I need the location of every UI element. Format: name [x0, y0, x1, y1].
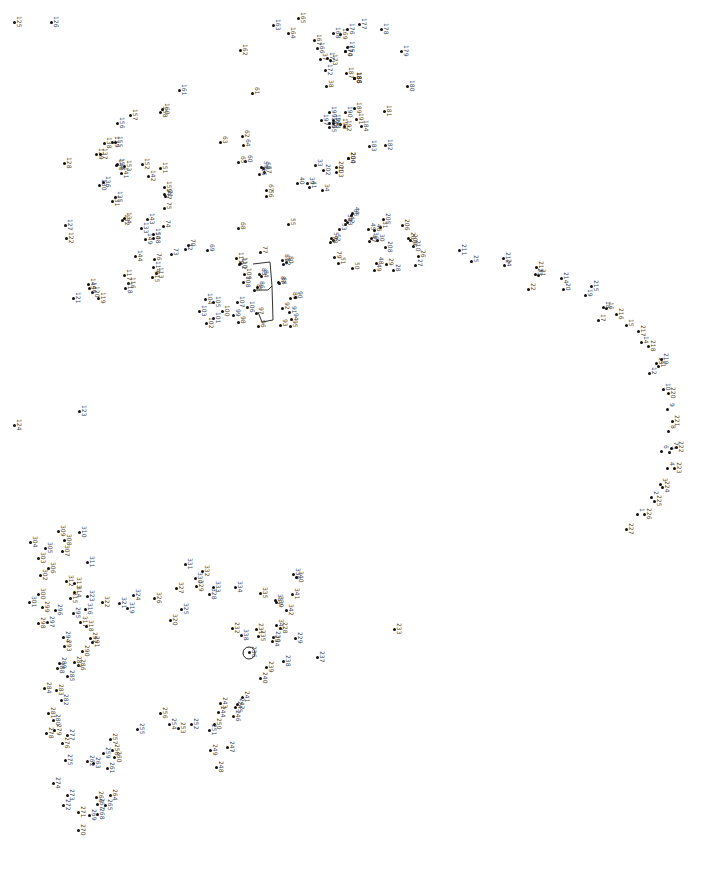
dot-number-label: 177 — [361, 18, 367, 29]
dot-number-label: 73 — [173, 248, 179, 256]
dot-number-label: 163 — [275, 19, 281, 30]
dot-number-label: 306 — [50, 562, 56, 573]
dot-number-label: 128 — [66, 157, 72, 168]
dot-number-label: 251 — [211, 724, 217, 735]
dot-number-label: 335 — [262, 587, 268, 598]
dot-number-label: 115 — [154, 271, 160, 282]
dot-number-label: 112 — [241, 258, 247, 269]
dot-number-label: 25 — [473, 255, 479, 263]
dot-number-label: 277 — [69, 729, 75, 740]
dot-number-label: 122 — [68, 232, 74, 243]
puzzle-dot — [659, 483, 662, 486]
dot-number-label: 22 — [530, 283, 536, 291]
dot-number-label: 226 — [646, 508, 652, 519]
dot-number-label: 244 — [220, 706, 226, 717]
dot-number-label: 76 — [156, 253, 162, 261]
dot-number-label: 202 — [325, 164, 331, 175]
dot-number-label: 270 — [80, 824, 86, 835]
dot-number-label: 246 — [235, 710, 241, 721]
puzzle-dot — [670, 447, 673, 450]
puzzle-dot — [667, 430, 670, 433]
dot-number-label: 178 — [383, 23, 389, 34]
dot-number-label: 55 — [290, 218, 296, 226]
dot-number-label: 152 — [144, 158, 150, 169]
dot-number-label: 183 — [371, 140, 377, 151]
dot-number-label: 302 — [42, 569, 48, 580]
dot-number-label: 146 — [91, 282, 97, 293]
dot-number-label: 256 — [162, 707, 168, 718]
dot-number-label: 90 — [297, 291, 303, 299]
dot-number-label: 18 — [605, 301, 611, 309]
dot-number-label: 304 — [32, 536, 38, 547]
dot-number-label: 62 — [244, 130, 250, 138]
dot-number-label: 153 — [126, 160, 132, 171]
dot-number-label: 269 — [91, 809, 97, 820]
dot-number-label: 318 — [88, 620, 94, 631]
dot-number-label: 117 — [126, 269, 132, 280]
dot-number-label: 50 — [354, 262, 360, 270]
dot-number-label: 102 — [208, 317, 214, 328]
dot-number-label: 167 — [316, 34, 322, 45]
dot-number-label: 60 — [247, 155, 253, 163]
dot-number-label: 44 — [354, 207, 360, 215]
dot-number-label: 190 — [347, 106, 353, 117]
dot-number-label: 220 — [670, 387, 676, 398]
dot-number-label: 290 — [84, 645, 90, 656]
dot-number-label: 189 — [356, 102, 362, 113]
dot-number-label: 53 — [341, 223, 347, 231]
dot-number-label: 34 — [324, 184, 330, 192]
dot-number-label: 309 — [60, 525, 66, 536]
dot-number-label: 157 — [132, 109, 138, 120]
dot-number-label: 72 — [187, 243, 193, 251]
dot-number-label: 342 — [288, 604, 294, 615]
dot-number-label: 98 — [240, 316, 246, 324]
dot-number-label: 310 — [81, 526, 87, 537]
dot-number-label: 212 — [505, 252, 511, 263]
dot-number-label: 253 — [180, 722, 186, 733]
dot-number-label: 136 — [105, 176, 111, 187]
dot-number-label: 144 — [137, 250, 143, 261]
dot-number-label: 172 — [327, 64, 333, 75]
dot-number-label: 164 — [290, 27, 296, 38]
dot-number-label: 211 — [461, 244, 467, 255]
dot-number-label: 260 — [116, 751, 122, 762]
dot-number-label: 182 — [387, 139, 393, 150]
dot-number-label: 316 — [87, 603, 93, 614]
dot-number-label: 203 — [338, 166, 344, 177]
dot-number-label: 339 — [278, 596, 284, 607]
dot-number-label: 206 — [404, 219, 410, 230]
dot-number-label: 234 — [274, 635, 280, 646]
dot-number-label: 330 — [197, 572, 203, 583]
dot-number-label: 160 — [164, 103, 170, 114]
dot-number-label: 67 — [268, 184, 274, 192]
dot-number-label: 272 — [65, 799, 71, 810]
dot-number-label: 214 — [563, 272, 569, 283]
puzzle-dot — [636, 513, 639, 516]
dot-number-label: 161 — [181, 84, 187, 95]
dot-number-label: 205 — [385, 213, 391, 224]
dot-number-label: 46 — [376, 224, 382, 232]
dot-number-label: 323 — [89, 590, 95, 601]
dot-number-label: 65 — [240, 156, 246, 164]
dot-number-label: 38 — [328, 80, 334, 88]
dot-number-label: 238 — [285, 655, 291, 666]
dot-number-label: 75 — [166, 202, 172, 210]
dot-number-label: 237 — [319, 651, 325, 662]
dot-number-label: 213 — [538, 261, 544, 272]
dot-number-label: 325 — [183, 603, 189, 614]
dot-number-label: 287 — [76, 656, 82, 667]
dot-number-label: 311 — [89, 556, 95, 567]
dot-number-label: 341 — [294, 588, 300, 599]
dot-number-label: 28 — [395, 264, 401, 272]
dot-number-label: 221 — [674, 415, 680, 426]
dot-number-label: 332 — [204, 565, 210, 576]
dot-number-label: 284 — [46, 682, 52, 693]
dot-number-label: 121 — [75, 292, 81, 303]
dot-number-label: 97 — [258, 307, 264, 315]
dot-number-label: 134 — [126, 212, 132, 223]
puzzle-dot — [650, 496, 653, 499]
dot-number-label: 123 — [81, 405, 87, 416]
dot-number-label: 257 — [112, 733, 118, 744]
dot-number-label: 285 — [69, 670, 75, 681]
dot-number-label: 229 — [297, 632, 303, 643]
